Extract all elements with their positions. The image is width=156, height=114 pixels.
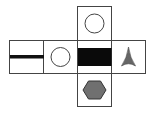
face-top (78, 7, 112, 41)
hexagon-icon (83, 81, 106, 99)
black-rectangle-icon (78, 48, 112, 66)
horizontal-bar-icon (10, 55, 44, 59)
face-center-left (44, 41, 78, 74)
cube-net-diagram (0, 0, 156, 114)
